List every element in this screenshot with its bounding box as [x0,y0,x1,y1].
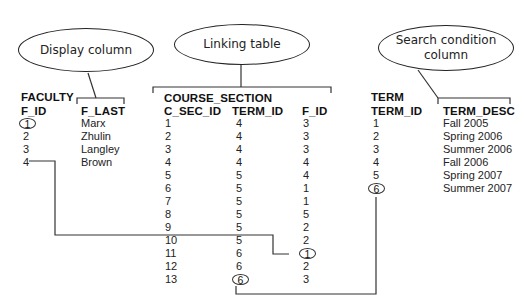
faculty-f-id-2: 3 [23,143,29,156]
course-section-cell: 1 [303,195,309,208]
callout-search-condition: Search condition column [378,25,514,71]
faculty-f-last-0: Marx [81,117,105,130]
course-section-cell: 2 [165,130,171,143]
course-section-table-name: COURSE_SECTION [164,92,272,104]
term-desc-cell: Summer 2006 [443,143,512,156]
faculty-f-last-1: Zhulin [81,130,111,143]
course-section-cell: 4 [236,143,242,156]
faculty-f-id-highlight: 1 [19,118,36,129]
faculty-f-id-1: 2 [23,130,29,143]
course-section-term-id-highlight: 6 [232,274,249,285]
course-section-cell: 3 [303,130,309,143]
term-desc-cell: Fall 2005 [443,117,488,130]
course-section-cell: 8 [165,208,171,221]
course-section-cell: 3 [303,273,309,286]
course-section-cell: 5 [236,195,242,208]
callout-search-text-2: column [424,48,468,63]
course-section-cell: 6 [236,260,242,273]
course-section-cell: 5 [236,169,242,182]
callout-search-text-1: Search condition [396,33,497,48]
course-section-cell: 10 [165,234,177,247]
term-desc-cell: Spring 2007 [443,169,502,182]
term-id-cell: 3 [373,143,379,156]
callout-linking-table: Linking table [174,24,310,65]
faculty-col-f-last: F_LAST [81,105,125,117]
course-section-col-c-sec-id: C_SEC_ID [164,105,221,117]
term-col-term-desc: TERM_DESC [443,105,515,117]
faculty-f-id-3: 4 [23,156,29,169]
course-section-cell: 6 [236,247,242,260]
course-section-col-f-id: F_ID [302,105,327,117]
course-section-cell: 4 [303,169,309,182]
term-desc-cell: Summer 2007 [443,182,512,195]
term-id-cell: 5 [373,169,379,182]
course-section-cell: 12 [165,260,177,273]
course-section-cell: 4 [236,117,242,130]
course-section-f-id-highlight: 1 [299,248,316,259]
course-section-cell: 1 [165,117,171,130]
callout-display-column: Display column [18,28,154,72]
course-section-cell: 2 [303,234,309,247]
course-section-cell: 5 [236,221,242,234]
term-id-cell: 2 [373,130,379,143]
course-section-cell: 4 [236,156,242,169]
term-col-term-id: TERM_ID [371,105,422,117]
course-section-cell: 1 [303,182,309,195]
callout-linking-text: Linking table [203,37,280,52]
course-section-cell: 9 [165,221,171,234]
course-section-cell: 3 [303,143,309,156]
faculty-col-f-id: F_ID [21,105,46,117]
course-section-cell: 7 [165,195,171,208]
course-section-cell: 5 [236,234,242,247]
course-section-cell: 4 [236,130,242,143]
course-section-cell: 4 [165,156,171,169]
course-section-cell: 4 [303,156,309,169]
faculty-table-name: FACULTY [21,91,74,103]
term-id-cell: 1 [373,117,379,130]
term-desc-cell: Spring 2006 [443,130,502,143]
course-section-cell: 3 [303,117,309,130]
course-section-cell: 2 [303,221,309,234]
course-section-cell: 6 [165,182,171,195]
course-section-cell: 3 [165,143,171,156]
course-section-cell: 5 [236,208,242,221]
callout-display-text: Display column [40,43,132,58]
course-section-cell: 5 [303,208,309,221]
course-section-cell: 11 [165,247,176,260]
term-term-id-highlight: 6 [368,183,385,194]
term-desc-cell: Fall 2006 [443,156,488,169]
course-section-col-term-id: TERM_ID [232,105,283,117]
course-section-cell: 5 [165,169,171,182]
faculty-f-last-2: Langley [81,143,120,156]
faculty-f-last-3: Brown [81,156,112,169]
term-table-name: TERM [371,91,404,103]
course-section-cell: 13 [165,273,177,286]
course-section-cell: 2 [303,260,309,273]
course-section-cell: 5 [236,182,242,195]
term-id-cell: 4 [373,156,379,169]
